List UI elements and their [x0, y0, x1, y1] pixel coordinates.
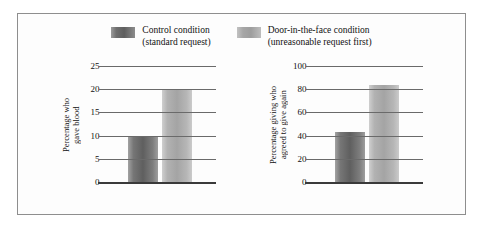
gridline-left — [104, 136, 216, 137]
y-axis-title-right: Percentage giving who agreed to give aga… — [268, 66, 288, 188]
legend-label-control: Control condition (standard request) — [142, 25, 210, 48]
plot-area-right — [311, 66, 423, 184]
plot-area-left — [104, 66, 216, 184]
bar-right-light — [369, 85, 399, 182]
tick-mark-left — [99, 66, 104, 67]
x-axis-line-left — [98, 182, 216, 184]
tick-mark-left — [99, 89, 104, 90]
bar-right-dark — [335, 132, 365, 182]
tick-mark-right — [306, 89, 311, 90]
plot-wrap-right: 100806040200 — [291, 66, 423, 184]
tick-mark-right — [306, 112, 311, 113]
y-axis-ticks-right: 100806040200 — [291, 66, 311, 184]
bar-group-right — [311, 66, 423, 182]
legend-swatch-door-in-the-face-icon — [237, 27, 261, 38]
legend-label-control-line2: (standard request) — [142, 37, 210, 47]
gridline-right — [311, 66, 423, 67]
gridline-right — [311, 159, 423, 160]
y-axis-ticks-left: 2520151050 — [84, 66, 104, 184]
y-tick-label-right: 100 — [293, 62, 307, 71]
legend-item-door-in-the-face: Door-in-the-face condition (unreasonable… — [237, 25, 372, 48]
tick-mark-right — [306, 66, 311, 67]
tick-mark-left — [99, 112, 104, 113]
legend-swatch-control-icon — [111, 27, 135, 38]
gridline-right — [311, 136, 423, 137]
plot-wrap-left: 2520151050 — [84, 66, 216, 184]
chart-blood-donation: Percentage who gave blood 2520151050 — [61, 66, 216, 188]
chart-legend: Control condition (standard request) Doo… — [18, 25, 465, 48]
tick-mark-left — [99, 136, 104, 137]
legend-label-door-in-the-face-line2: (unreasonable request first) — [268, 37, 372, 47]
tick-mark-right — [306, 159, 311, 160]
tick-mark-right — [306, 136, 311, 137]
gridline-left — [104, 112, 216, 113]
bar-group-left — [104, 66, 216, 182]
x-axis-line-right — [305, 182, 423, 184]
gridline-left — [104, 66, 216, 67]
legend-item-control: Control condition (standard request) — [111, 25, 210, 48]
charts-container: Percentage who gave blood 2520151050 Per… — [18, 66, 465, 188]
gridline-left — [104, 159, 216, 160]
legend-label-door-in-the-face: Door-in-the-face condition (unreasonable… — [268, 25, 372, 48]
gridline-left — [104, 89, 216, 90]
chart-repeat-donation: Percentage giving who agreed to give aga… — [268, 66, 423, 188]
y-axis-title-left: Percentage who gave blood — [61, 66, 81, 188]
figure-frame: Control condition (standard request) Doo… — [17, 13, 466, 215]
legend-label-door-in-the-face-line1: Door-in-the-face condition — [268, 25, 370, 35]
gridline-right — [311, 89, 423, 90]
tick-mark-left — [99, 159, 104, 160]
legend-label-control-line1: Control condition — [142, 25, 209, 35]
gridline-right — [311, 112, 423, 113]
